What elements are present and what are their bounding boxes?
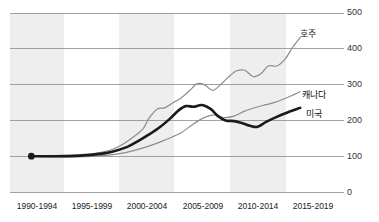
y-axis-tick-200: 200 [347,115,362,125]
background-band [119,13,174,192]
baseline-marker-dot [28,153,35,160]
y-axis-tick-0: 0 [347,187,352,197]
y-axis-tick-300: 300 [347,79,362,89]
series-label-canada: 캐나다 [302,88,326,101]
chart-container: 500 400 300 200 100 0 1990-1994 1995-199… [0,0,379,222]
x-axis-tick-2000-2004: 2000-2004 [115,201,179,211]
y-axis-tick-500: 500 [347,7,362,17]
series-label-australia: 호주 [300,27,316,40]
line-chart-plot [0,0,379,222]
y-axis-tick-100: 100 [347,151,362,161]
y-axis-tick-400: 400 [347,43,362,53]
background-band [10,13,64,192]
x-axis-tick-2015-2019: 2015-2019 [281,201,345,211]
background-band [230,13,286,192]
series-label-usa: 미국 [306,107,322,120]
background-bands [10,13,286,192]
baseline-marker-group [28,153,35,160]
